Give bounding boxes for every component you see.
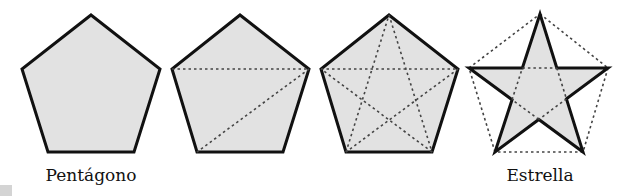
pentagon-shape [172,15,309,152]
pentagon-figure [22,15,160,152]
pentagon-two-diagonals-figure [172,15,309,152]
pentagon-all-diagonals-figure [321,15,458,152]
pentagon-shape [321,15,458,152]
star-shape [469,14,608,152]
star-figure [469,14,608,152]
pentagon-label: Pentágono [46,165,137,185]
pentagon-shape [22,15,160,152]
corner-swatch [0,185,12,196]
star-label: Estrella [506,165,573,185]
